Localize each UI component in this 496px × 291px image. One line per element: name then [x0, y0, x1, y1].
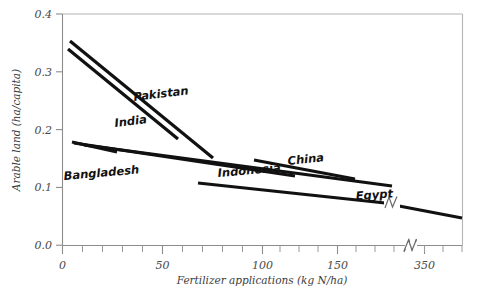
chart-canvas: 0.4 0.3 0.2 0.1 0.0 Arable land (ha/capi… [0, 0, 496, 291]
series-label-egypt: Egypt [355, 186, 394, 203]
x-tick-label-0: 0 [59, 259, 66, 272]
series-label-pakistan: Pakistan [133, 83, 190, 104]
y-tick-label-0.2: 0.2 [35, 124, 53, 137]
y-tick-label-0.4: 0.4 [35, 8, 53, 21]
y-tick-label-0.1: 0.1 [35, 181, 53, 194]
y-tick-labels: 0.4 0.3 0.2 0.1 0.0 [35, 8, 53, 252]
series-lines [68, 41, 462, 218]
x-tick-label-50: 50 [156, 259, 170, 272]
y-tick-label-0.0: 0.0 [35, 239, 53, 252]
y-tick-label-0.3: 0.3 [35, 66, 53, 79]
y-axis-title: Arable land (ha/capita) [10, 69, 22, 192]
chart-figure: 0.4 0.3 0.2 0.1 0.0 Arable land (ha/capi… [0, 0, 496, 291]
plot-frame [63, 14, 463, 245]
series-label-bangladesh: Bangladesh [63, 162, 140, 183]
x-tick-labels: 0 50 100 150 350 [59, 259, 435, 272]
x-tick-label-350: 350 [414, 259, 435, 272]
series-label-india: India [114, 112, 148, 130]
x-tick-label-150: 150 [327, 259, 348, 272]
x-axis-break-glyph [404, 240, 417, 252]
series-line-egypt-right [399, 206, 462, 218]
x-axis [63, 239, 463, 254]
series-label-china: China [287, 150, 325, 168]
y-axis [56, 14, 63, 246]
x-axis-title: Fertilizer applications (kg N/ha) [176, 274, 348, 286]
x-tick-label-100: 100 [252, 259, 273, 272]
